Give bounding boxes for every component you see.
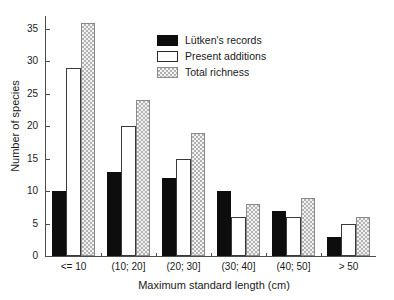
- y-tick-label: 30: [18, 56, 38, 66]
- bar: [301, 198, 316, 256]
- x-axis-title-text: Maximum standard length (cm): [104, 279, 290, 291]
- bar: [52, 191, 67, 256]
- bar: [217, 191, 232, 256]
- x-category-label: (40; 50]: [266, 261, 321, 272]
- legend-swatch-black-icon: [157, 35, 178, 46]
- y-tick-label: 10: [18, 186, 38, 196]
- bar: [81, 23, 96, 257]
- bar: [231, 217, 246, 256]
- bar: [286, 217, 301, 256]
- bar: [327, 237, 342, 256]
- x-category-label: > 50: [321, 261, 376, 272]
- bar: [191, 133, 206, 256]
- bar: [121, 126, 136, 256]
- y-tick-label: 15: [18, 154, 38, 164]
- bar: [246, 204, 261, 256]
- y-tick-mark: [46, 256, 50, 257]
- y-tick-label: 5: [18, 219, 38, 229]
- x-category-label: (10; 20]: [101, 261, 156, 272]
- x-category-label: <= 10: [46, 261, 101, 272]
- legend-item-total-richness: Total richness: [157, 65, 266, 79]
- y-tick-label: 0: [18, 251, 38, 261]
- legend-swatch-checkered-icon: [157, 67, 178, 78]
- y-tick-label: 20: [18, 121, 38, 131]
- legend-swatch-white-icon: [157, 51, 178, 62]
- y-tick-label: 25: [18, 89, 38, 99]
- bar: [176, 159, 191, 256]
- legend-item-lutkens-records: Lütken's records: [157, 33, 266, 47]
- x-axis-title: Maximum standard length (cm): [0, 279, 394, 291]
- y-axis-title: Number of species: [9, 51, 21, 201]
- bar: [66, 68, 81, 256]
- legend-item-present-additions: Present additions: [157, 49, 266, 63]
- bar: [341, 224, 356, 256]
- legend: Lütken's records Present additions Total…: [157, 33, 266, 81]
- legend-label-present-additions: Present additions: [185, 50, 266, 62]
- bar: [136, 100, 151, 256]
- legend-label-total-richness: Total richness: [185, 66, 249, 78]
- bar: [162, 178, 177, 256]
- bar-chart-figure: 05101520253035 <= 10(10; 20](20; 30](30;…: [0, 0, 394, 300]
- bar: [356, 217, 371, 256]
- bar: [272, 211, 287, 256]
- x-category-label: (30; 40]: [211, 261, 266, 272]
- y-tick-label: 35: [18, 24, 38, 34]
- legend-label-lutkens-records: Lütken's records: [185, 34, 262, 46]
- x-category-label: (20; 30]: [156, 261, 211, 272]
- bar: [107, 172, 122, 256]
